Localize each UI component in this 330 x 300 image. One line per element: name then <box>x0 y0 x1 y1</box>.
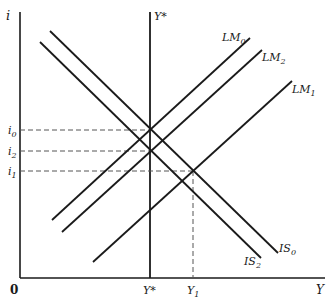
y-axis-label: i <box>6 8 10 23</box>
origin-label: 0 <box>10 283 18 297</box>
i1-label: i1 <box>8 165 17 180</box>
lm2-curve <box>62 50 262 232</box>
i2-label: i2 <box>8 145 17 160</box>
y1-label: Y1 <box>187 284 199 299</box>
is0-curve <box>50 31 278 253</box>
is2-label: IS2 <box>243 255 261 270</box>
y-star-bottom-label: Y* <box>143 284 156 297</box>
lm1-curve <box>93 81 292 262</box>
is0-label: IS0 <box>278 242 296 257</box>
lm0-label: LM0 <box>221 31 246 46</box>
lm2-label: LM2 <box>261 51 286 66</box>
i0-label: i0 <box>8 124 17 139</box>
lm1-label: LM1 <box>291 83 316 98</box>
is-lm-diagram: i Y 0 Y* Y* i0 i2 i1 Y1 LM0 LM2 LM1 IS0 … <box>0 0 330 300</box>
y-star-top-label: Y* <box>154 10 167 23</box>
lm0-curve <box>52 38 250 220</box>
x-axis-label: Y <box>316 283 325 297</box>
